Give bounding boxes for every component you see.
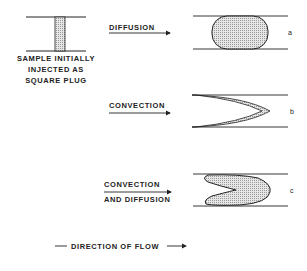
panel-a-tag: a: [288, 29, 292, 36]
diffusion-label: DIFFUSION: [109, 23, 155, 32]
panel-c-figure: [193, 174, 288, 206]
sample-caption-line-3: SQUARE PLUG: [25, 76, 87, 85]
convection-diffusion-label-line-1: CONVECTION: [104, 180, 160, 189]
diffused-plug: [212, 16, 268, 49]
sample-caption-line-2: INJECTED AS: [28, 65, 84, 74]
convection-diffusion-label-line-2: AND DIFFUSION: [104, 195, 171, 204]
sample-caption-line-1: SAMPLE INITIALLY: [17, 54, 95, 63]
initial-plug-figure: [26, 17, 86, 51]
direction-of-flow-label: DIRECTION OF FLOW: [71, 242, 159, 251]
square-plug: [55, 17, 65, 51]
convection-label: CONVECTION: [109, 101, 165, 110]
panel-a-figure: [193, 16, 288, 49]
parabolic-front: [192, 95, 270, 127]
diffuse-parabolic-band: [205, 175, 271, 206]
panel-b-figure: [192, 95, 288, 127]
flow-dispersion-diagram: SAMPLE INITIALLY INJECTED AS SQUARE PLUG…: [0, 0, 307, 271]
panel-c-tag: c: [290, 187, 294, 194]
panel-b-tag: b: [290, 108, 294, 115]
